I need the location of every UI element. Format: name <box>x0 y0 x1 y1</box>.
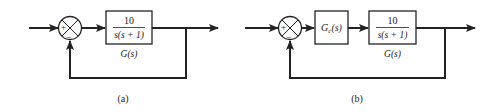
caption-a: (a) <box>117 93 128 105</box>
plant-numerator-b: 10 <box>388 15 398 26</box>
caption-b: (b) <box>351 93 363 105</box>
controller-block-b: Gc(s) <box>315 11 348 44</box>
summing-junction-b: + – <box>279 17 302 41</box>
plant-block-b: 10 s(s + 1) <box>369 11 416 44</box>
plus-sign-b: + <box>281 22 286 32</box>
plant-label-b: G(s) <box>384 49 401 60</box>
panel-b: + – Gc(s) 10 s(s + 1) G(s) (b) <box>245 11 475 105</box>
plus-sign-a: + <box>61 22 66 32</box>
plant-denominator-a: s(s + 1) <box>114 30 144 41</box>
minus-sign-a: – <box>66 31 72 41</box>
minus-sign-b: – <box>286 31 292 41</box>
plant-block-a: 10 s(s + 1) <box>106 11 152 44</box>
summing-junction-a: + – <box>59 17 82 41</box>
block-diagram-canvas: + – 10 s(s + 1) G(s) (a) + – <box>0 0 495 112</box>
panel-a: + – 10 s(s + 1) G(s) (a) <box>29 11 218 105</box>
plant-numerator-a: 10 <box>124 15 134 26</box>
plant-denominator-b: s(s + 1) <box>378 30 408 41</box>
plant-label-a: G(s) <box>121 49 138 60</box>
feedback-path-b <box>290 28 445 78</box>
